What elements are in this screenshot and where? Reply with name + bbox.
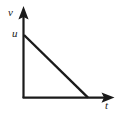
v-axis-label: v — [8, 7, 13, 18]
velocity-line — [24, 35, 88, 98]
velocity-time-graph-figure: v u t — [0, 0, 121, 115]
t-axis-label: t — [105, 100, 108, 111]
initial-velocity-label: u — [12, 28, 18, 39]
graph-canvas — [0, 0, 121, 115]
